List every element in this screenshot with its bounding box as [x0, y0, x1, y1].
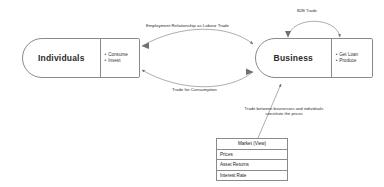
node-business-label: Business [256, 39, 331, 77]
market-table-row[interactable]: Prices [217, 150, 287, 161]
edge-trade-consumption [142, 70, 253, 87]
operation-item: • Produce [336, 58, 369, 64]
diagram-canvas: Individuals • Consume • Invest Business … [0, 0, 384, 187]
edge-label-trade-consumption: Trade for Consumption [172, 87, 217, 93]
annotation-price-note-line2: constitute the prices [228, 111, 340, 116]
operation-label: Produce [339, 58, 356, 64]
edge-labour-trade-reverse-head [142, 43, 150, 50]
node-individuals[interactable]: Individuals • Consume • Invest [22, 38, 140, 78]
node-business-operations: • Get Loan • Produce [331, 39, 372, 77]
operation-label: Invest [108, 58, 120, 64]
market-table-row[interactable]: Interest Rate [217, 171, 287, 181]
edge-trade-consumption-reverse-head [246, 69, 254, 76]
bullet-icon: • [336, 58, 338, 64]
edge-label-labour-trade: Employment Relationship as Labour Trade [146, 23, 229, 29]
bullet-icon: • [105, 58, 107, 64]
annotation-price-note: Trade between businesses and individuals… [228, 106, 340, 117]
edge-b2b-self-loop [288, 21, 340, 37]
edge-labour-trade [142, 29, 253, 46]
node-business[interactable]: Business • Get Loan • Produce [255, 38, 373, 78]
node-individuals-operations: • Consume • Invest [100, 39, 139, 77]
market-table[interactable]: Market (View) Prices Asset Returns Inter… [216, 138, 288, 181]
operation-item: • Invest [105, 58, 136, 64]
edge-b2b-self-loop-start-head [285, 31, 291, 38]
market-table-header: Market (View) [217, 139, 287, 150]
market-table-row[interactable]: Asset Returns [217, 160, 287, 171]
edge-label-b2b-trade: B2B Trade [297, 8, 317, 13]
node-individuals-label: Individuals [23, 39, 100, 77]
